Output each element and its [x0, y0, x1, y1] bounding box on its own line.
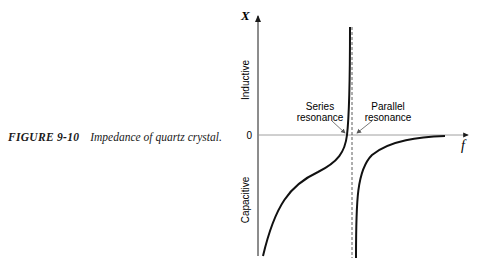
- reactance-curve-lower: [263, 27, 350, 256]
- zero-label: 0: [246, 130, 252, 141]
- capacitive-label: Capacitive: [240, 176, 251, 223]
- x-axis-label: f: [461, 138, 467, 153]
- reactance-chart: X f 0 Inductive Capacitive Series resona…: [0, 0, 482, 271]
- inductive-label: Inductive: [240, 60, 251, 100]
- series-resonance-label-2: resonance: [297, 112, 344, 123]
- y-axis-label: X: [240, 8, 250, 23]
- series-resonance-label-1: Series: [306, 101, 334, 112]
- parallel-resonance-label-1: Parallel: [371, 101, 404, 112]
- parallel-resonance-label-2: resonance: [365, 112, 412, 123]
- reactance-curve-upper: [356, 136, 445, 258]
